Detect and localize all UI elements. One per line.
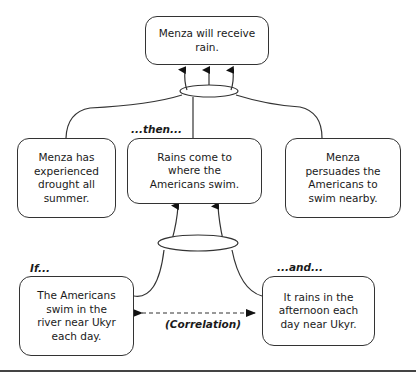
bottom-divider (0, 370, 416, 372)
node-text: It rains in the afternoon each day near … (275, 291, 362, 332)
node-text: Rains come to where the Americans swim. (146, 151, 243, 192)
top-junction (66, 70, 322, 138)
node-drought: Menza has experienced drought all summer… (17, 138, 116, 218)
node-rains-come: Rains come to where the Americans swim. (127, 138, 262, 204)
node-persuades: Menza persuades the Americans to swim ne… (285, 138, 401, 218)
node-text: Menza will receive rain. (150, 27, 264, 54)
node-conclusion: Menza will receive rain. (145, 16, 269, 65)
node-americans-swim: The Americans swim in the river near Uky… (19, 276, 134, 356)
node-text: The Americans swim in the river near Uky… (34, 289, 119, 343)
label-if: If... (30, 262, 50, 274)
label-then: ...then... (131, 123, 182, 135)
label-and: ...and... (277, 261, 323, 273)
node-rains-ukyr: It rains in the afternoon each day near … (262, 276, 375, 346)
bottom-junction (134, 206, 262, 296)
label-correlation: (Correlation) (165, 318, 241, 330)
node-text: Menza persuades the Americans to swim ne… (302, 151, 384, 205)
node-text: Menza has experienced drought all summer… (22, 151, 111, 205)
